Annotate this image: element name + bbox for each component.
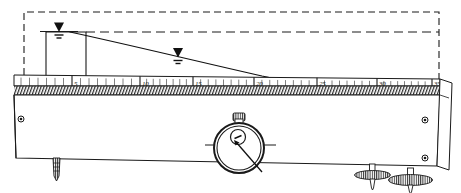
seepage-flume-drawing: 5101520253035 <box>0 0 461 193</box>
leveling-foot-right[interactable] <box>389 168 433 193</box>
bolt-hole-right-upper-center <box>424 119 427 122</box>
leveling-foot-left[interactable] <box>53 158 60 181</box>
bolt-hole-left-center <box>20 118 23 121</box>
figure-root: 5101520253035 <box>0 0 461 193</box>
bolt-hole-right-lower-center <box>424 157 427 160</box>
hatched-soil-band <box>14 86 440 95</box>
leveling-foot-center-right[interactable] <box>355 164 391 190</box>
